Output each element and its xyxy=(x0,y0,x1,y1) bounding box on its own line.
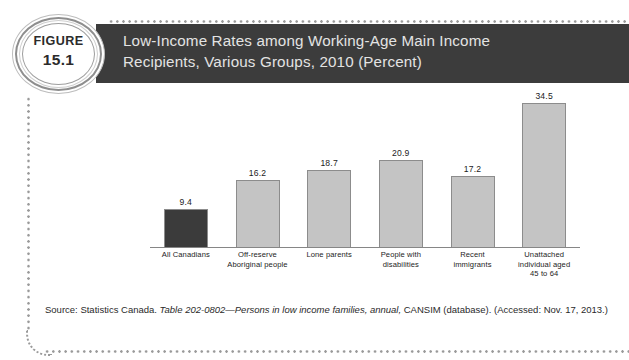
source-note: Source: Statistics Canada. Table 202-080… xyxy=(45,303,625,317)
dotted-frame-corner xyxy=(26,330,52,356)
bar xyxy=(164,209,208,248)
bar xyxy=(236,180,280,248)
bar-column: 17.2 xyxy=(451,97,495,248)
source-table-title: Table 202-0802—Persons in low income fam… xyxy=(160,304,402,315)
bar-value-label: 17.2 xyxy=(431,164,515,174)
dotted-frame-top xyxy=(108,20,629,23)
dotted-frame-left xyxy=(27,96,30,332)
category-label: Off-reserve Aboriginal people xyxy=(222,250,294,269)
bar-value-label: 9.4 xyxy=(144,197,228,207)
bar-value-label: 34.5 xyxy=(502,91,586,101)
bar-chart-plot: 9.416.218.720.917.234.5 xyxy=(150,96,580,248)
category-label: Recent immigrants xyxy=(437,250,509,269)
badge-label: FIGURE xyxy=(12,34,105,48)
bar xyxy=(379,160,423,248)
bar-value-label: 18.7 xyxy=(287,158,371,168)
category-label: People with disabilities xyxy=(365,250,437,269)
figure-container: Low-Income Rates among Working-Age Main … xyxy=(0,0,629,360)
source-suffix: CANSIM (database). (Accessed: Nov. 17, 2… xyxy=(401,304,608,315)
bar xyxy=(451,176,495,248)
figure-badge: FIGURE 15.1 xyxy=(12,14,105,94)
bar xyxy=(307,170,351,248)
bar-column: 9.4 xyxy=(164,97,208,248)
source-prefix: Source: Statistics Canada. xyxy=(45,304,160,315)
category-label: Lone parents xyxy=(293,250,365,260)
category-label: All Canadians xyxy=(150,250,222,260)
bar xyxy=(522,103,566,248)
figure-title-bar: Low-Income Rates among Working-Age Main … xyxy=(96,24,629,83)
bar-column: 18.7 xyxy=(307,97,351,248)
bar-column: 16.2 xyxy=(236,97,280,248)
figure-title: Low-Income Rates among Working-Age Main … xyxy=(123,30,619,72)
chart-category-labels: All CanadiansOff-reserve Aboriginal peop… xyxy=(150,250,580,290)
bar-value-label: 20.9 xyxy=(359,148,443,158)
bar-value-label: 16.2 xyxy=(216,168,300,178)
dotted-frame-bottom xyxy=(44,350,629,353)
bar-column: 20.9 xyxy=(379,97,423,248)
category-label: Unattached individual aged 45 to 64 xyxy=(508,250,580,279)
bar-column: 34.5 xyxy=(522,97,566,248)
badge-number: 15.1 xyxy=(12,51,105,69)
chart-baseline-axis xyxy=(150,247,580,248)
